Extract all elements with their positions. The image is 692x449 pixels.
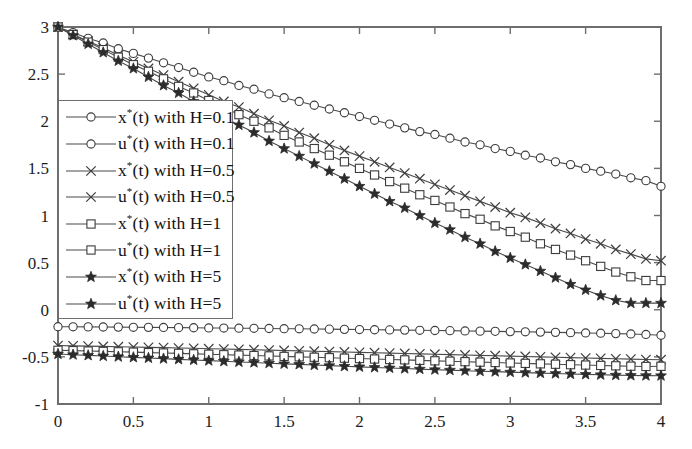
legend-marker-circle-icon <box>64 106 118 128</box>
legend-label: u*(t) with H=0.1 <box>118 135 235 153</box>
legend-label-text: (t) with H=5 <box>132 293 221 313</box>
legend-variable-symbol: u <box>118 293 127 313</box>
legend-label-text: (t) with H=0.1 <box>132 107 234 127</box>
legend-entry-x-H1[interactable]: x*(t) with H=1 <box>59 211 232 238</box>
y-tick-label: 2 <box>0 113 49 130</box>
figure-canvas: -1-0.500.511.522.53 00.511.522.533.54 x*… <box>0 0 692 449</box>
legend-label: u*(t) with H=1 <box>118 242 221 260</box>
legend-label-text: (t) with H=0.1 <box>132 133 234 153</box>
legend-marker-star-icon <box>64 266 118 288</box>
series-u-H0-1 <box>54 323 665 340</box>
chart-legend: x*(t) with H=0.1u*(t) with H=0.1x*(t) wi… <box>58 100 233 319</box>
legend-marker-square-icon <box>64 213 118 235</box>
legend-variable-symbol: x <box>118 107 127 127</box>
legend-entry-u-H1[interactable]: u*(t) with H=1 <box>59 237 232 264</box>
legend-label: u*(t) with H=0.5 <box>118 188 235 206</box>
legend-entry-u-H0-5[interactable]: u*(t) with H=0.5 <box>59 184 232 211</box>
legend-entry-x-H0-5[interactable]: x*(t) with H=0.5 <box>59 157 232 184</box>
legend-label: u*(t) with H=5 <box>118 295 221 313</box>
x-tick-label: 0 <box>54 413 63 430</box>
y-tick-label: 1.5 <box>0 160 49 177</box>
legend-marker-square-icon <box>64 239 118 261</box>
legend-label: x*(t) with H=1 <box>118 215 221 233</box>
legend-label-text: (t) with H=1 <box>132 213 221 233</box>
legend-marker-circle-icon <box>64 133 118 155</box>
legend-marker-cross-icon <box>64 186 118 208</box>
y-tick-label: -0.5 <box>0 348 49 365</box>
legend-label-text: (t) with H=0.5 <box>132 160 234 180</box>
x-tick-label: 1 <box>205 413 214 430</box>
y-tick-label: 3 <box>0 19 49 36</box>
x-tick-label: 2.5 <box>424 413 445 430</box>
legend-label-text: (t) with H=5 <box>132 266 221 286</box>
x-tick-label: 1.5 <box>274 413 295 430</box>
legend-variable-symbol: u <box>118 240 127 260</box>
legend-label: x*(t) with H=0.5 <box>118 162 235 180</box>
y-tick-label: 0.5 <box>0 254 49 271</box>
y-tick-label: 1 <box>0 207 49 224</box>
y-tick-label: 0 <box>0 301 49 318</box>
y-tick-label: 2.5 <box>0 66 49 83</box>
x-tick-label: 4 <box>657 413 666 430</box>
legend-marker-star-icon <box>64 293 118 315</box>
legend-label: x*(t) with H=5 <box>118 268 221 286</box>
legend-variable-symbol: x <box>118 160 127 180</box>
legend-marker-cross-icon <box>64 160 118 182</box>
x-tick-label: 3.5 <box>575 413 596 430</box>
legend-variable-symbol: x <box>118 213 127 233</box>
x-tick-label: 0.5 <box>123 413 144 430</box>
legend-label-text: (t) with H=0.5 <box>132 186 234 206</box>
legend-variable-symbol: x <box>118 266 127 286</box>
legend-entry-u-H0-1[interactable]: u*(t) with H=0.1 <box>59 131 232 158</box>
legend-label: x*(t) with H=0.1 <box>118 109 235 127</box>
y-tick-label: -1 <box>0 396 49 413</box>
legend-entry-x-H0-1[interactable]: x*(t) with H=0.1 <box>59 104 232 131</box>
legend-variable-symbol: u <box>118 133 127 153</box>
legend-label-text: (t) with H=1 <box>132 240 221 260</box>
legend-entry-x-H5[interactable]: x*(t) with H=5 <box>59 264 232 291</box>
x-tick-label: 3 <box>506 413 515 430</box>
legend-variable-symbol: u <box>118 186 127 206</box>
x-tick-label: 2 <box>355 413 364 430</box>
legend-entry-u-H5[interactable]: u*(t) with H=5 <box>59 290 232 317</box>
